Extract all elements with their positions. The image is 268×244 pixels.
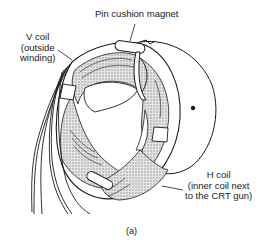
label-line: H coil: [185, 170, 252, 181]
yoke-inner-opening: [84, 82, 138, 112]
h-coil-label: H coil (inner coil next to the CRT gun): [185, 170, 252, 202]
label-line: Pin cushion magnet: [95, 9, 178, 20]
label-line: V coil: [20, 32, 55, 43]
label-line: to the CRT gun): [185, 191, 252, 202]
v-coil-label: V coil (outside winding): [20, 32, 55, 64]
pin-cushion-magnet-label: Pin cushion magnet: [95, 9, 178, 20]
label-line: winding): [20, 53, 55, 64]
figure-caption: (a): [126, 226, 137, 237]
